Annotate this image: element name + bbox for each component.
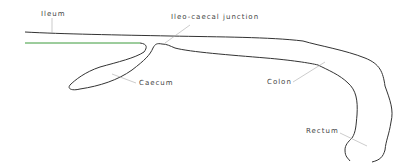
label-rectum: Rectum [306,127,339,135]
label-colon: Colon [267,78,292,86]
ileum-upper-wall [25,32,392,162]
ileo-caecal-leader [165,25,190,43]
caecum-outline [69,43,357,161]
label-ileum: Ileum [41,10,66,18]
label-caecum: Caecum [139,79,174,87]
label-ileo-caecal-junction: Ileo-caecal junction [171,13,259,21]
intestine-diagram [0,0,411,167]
colon-leader [293,62,325,82]
